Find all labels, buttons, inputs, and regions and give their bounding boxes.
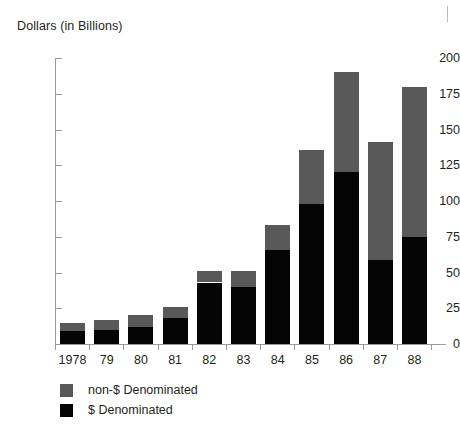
- bar-segment-dollar: [128, 327, 153, 344]
- bar-1978: [60, 0, 85, 436]
- bar-segment-non-dollar: [94, 320, 119, 330]
- legend-label: $ Denominated: [88, 403, 173, 418]
- bar-segment-dollar: [197, 283, 222, 345]
- legend-label: non-$ Denominated: [88, 383, 198, 398]
- bar-segment-non-dollar: [60, 323, 85, 332]
- bar-85: [299, 0, 324, 436]
- bar-79: [94, 0, 119, 436]
- x-axis-tick: [158, 345, 159, 350]
- bar-83: [231, 0, 256, 436]
- bar-80: [128, 0, 153, 436]
- plot-area: 0255075100125150175200 19787980818283848…: [0, 0, 460, 436]
- bar-segment-non-dollar: [299, 150, 324, 204]
- bar-segment-dollar: [94, 330, 119, 344]
- bar-segment-non-dollar: [334, 72, 359, 172]
- bar-segment-dollar: [60, 331, 85, 344]
- bar-87: [368, 0, 393, 436]
- bar-segment-dollar: [368, 260, 393, 344]
- x-axis-tick: [192, 345, 193, 350]
- bar-86: [334, 0, 359, 436]
- bar-segment-non-dollar: [163, 307, 188, 318]
- legend-swatch: [60, 404, 73, 417]
- bar-81: [163, 0, 188, 436]
- x-axis-tick: [294, 345, 295, 350]
- bar-84: [265, 0, 290, 436]
- bar-chart: Dollars (in Billions) 025507510012515017…: [0, 0, 460, 436]
- bar-segment-dollar: [334, 172, 359, 344]
- bar-segment-non-dollar: [265, 225, 290, 249]
- x-axis-tick: [89, 345, 90, 350]
- bar-segment-dollar: [265, 250, 290, 344]
- x-axis-tick: [55, 345, 56, 350]
- bar-segment-dollar: [163, 318, 188, 344]
- bar-segment-non-dollar: [231, 271, 256, 287]
- bar-segment-non-dollar: [197, 271, 222, 282]
- bar-segment-dollar: [402, 237, 427, 344]
- x-axis-tick: [123, 345, 124, 350]
- bar-segment-dollar: [299, 204, 324, 344]
- x-axis-tick: [431, 345, 432, 350]
- bar-segment-non-dollar: [368, 142, 393, 259]
- x-axis-tick: [329, 345, 330, 350]
- x-axis-tick: [226, 345, 227, 350]
- legend-swatch: [60, 384, 73, 397]
- bar-88: [402, 0, 427, 436]
- x-axis-tick: [260, 345, 261, 350]
- bar-segment-dollar: [231, 287, 256, 344]
- x-axis-tick: [363, 345, 364, 350]
- bar-segment-non-dollar: [402, 87, 427, 237]
- bar-82: [197, 0, 222, 436]
- bar-segment-non-dollar: [128, 315, 153, 326]
- x-axis-tick: [397, 345, 398, 350]
